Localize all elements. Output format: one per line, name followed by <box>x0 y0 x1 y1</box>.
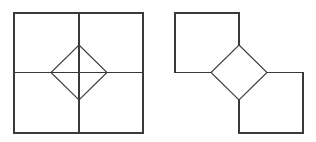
canvas-background <box>0 0 316 142</box>
geometric-figures-canvas <box>0 0 316 142</box>
